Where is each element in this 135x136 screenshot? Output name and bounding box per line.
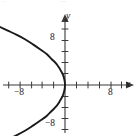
scan-artifact-top-center: ···· <box>60 0 86 5</box>
y-tick-label-neg8: −8 <box>45 119 55 129</box>
x-tick-label-neg8: −8 <box>14 88 24 98</box>
scan-artifact-top-left: ·· <box>2 0 16 5</box>
axis-group <box>3 14 134 133</box>
x-axis-label: x <box>126 80 130 90</box>
parabola-curve <box>0 27 65 136</box>
y-tick-label-pos8: 8 <box>50 33 55 43</box>
y-axis-label: y <box>66 12 70 22</box>
parabola-figure: −8 8 8 −8 x y ·· ···· <box>0 0 135 136</box>
x-tick-label-pos8: 8 <box>108 88 113 98</box>
